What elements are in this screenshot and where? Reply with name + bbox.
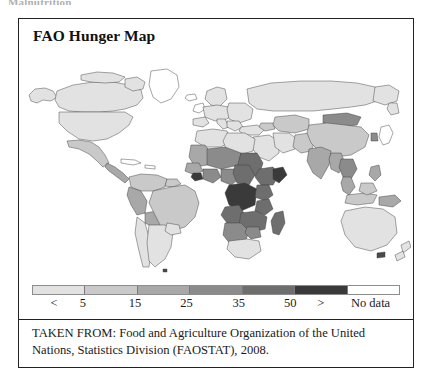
legend-swatch-1: [84, 286, 136, 294]
region-russia: [247, 81, 385, 111]
region-thailand-malaysia: [341, 177, 355, 195]
legend-swatch-5: [294, 286, 346, 294]
legend-label-greater-than: >: [317, 296, 324, 311]
region-iberia: [193, 117, 209, 127]
region-cuba: [121, 159, 141, 165]
legend-label-5: 5: [80, 296, 86, 311]
region-scandinavia: [205, 87, 227, 107]
legend-label-no-data: No data: [351, 296, 390, 311]
region-colombia-venezuela: [129, 174, 167, 191]
region-papua-new-guinea: [379, 195, 401, 207]
region-tasmania: [377, 252, 385, 258]
region-siberia-east: [373, 85, 399, 105]
region-indochina: [339, 159, 357, 179]
figure-title: FAO Hunger Map: [33, 27, 155, 45]
legend-label-15: 15: [129, 296, 142, 311]
region-alaska: [29, 88, 57, 103]
legend-label-35: 35: [233, 296, 246, 311]
legend-label-25: 25: [180, 296, 193, 311]
legend-swatch-2: [137, 286, 189, 294]
region-madagascar: [271, 211, 285, 235]
region-greenland: [149, 69, 179, 103]
legend-label-50: 50: [284, 296, 297, 311]
region-somalia: [273, 167, 287, 183]
legend-labels: < 5 15 25 35 50 > No data: [32, 296, 400, 314]
region-central-asia: [273, 115, 309, 133]
region-south-africa: [227, 239, 261, 259]
region-mexico: [67, 140, 109, 167]
map-legend: < 5 15 25 35 50 > No data: [32, 285, 400, 319]
region-india: [307, 147, 331, 179]
region-central-america: [105, 163, 129, 183]
world-map: [21, 55, 411, 281]
region-united-states: [59, 112, 133, 141]
region-korea: [371, 133, 378, 141]
region-philippines: [369, 165, 381, 181]
running-head: Malnutrition: [8, 0, 72, 5]
legend-swatch-3: [189, 286, 241, 294]
region-hispaniola: [145, 165, 155, 169]
region-kamchatka: [387, 103, 399, 115]
caption-divider: [19, 319, 413, 320]
region-eastern-europe: [227, 103, 253, 123]
region-canadian-arctic: [81, 72, 125, 83]
region-kenya-uganda: [255, 185, 273, 201]
legend-swatch-6: [347, 286, 399, 294]
region-indonesia: [345, 193, 377, 205]
region-australia: [341, 207, 397, 251]
region-falklands: [163, 269, 167, 272]
figure-caption: TAKEN FROM: Food and Agriculture Organiz…: [32, 325, 396, 358]
region-zimbabwe: [245, 227, 261, 239]
region-japan: [379, 125, 393, 145]
legend-label-less-than: <: [51, 296, 58, 311]
legend-swatch-4: [242, 286, 294, 294]
region-sierra-leone-liberia: [191, 173, 203, 181]
region-cote-divoire-ghana: [203, 169, 221, 183]
region-iceland: [185, 94, 197, 101]
region-new-zealand-south: [395, 251, 405, 261]
figure-container: FAO Hunger Map: [18, 18, 414, 368]
legend-swatch-0: [33, 286, 84, 294]
legend-gradient-bar: [32, 285, 400, 295]
